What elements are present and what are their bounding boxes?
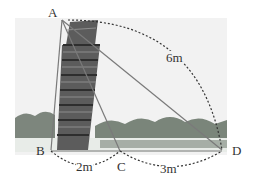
point-label-b: B: [36, 144, 45, 157]
point-label-c: C: [117, 160, 126, 173]
point-label-a: A: [48, 6, 57, 19]
photo-background: [15, 18, 227, 155]
measure-bc-label: 2m: [76, 160, 93, 173]
measure-ad-label: 6m: [166, 51, 183, 64]
measure-cd-label: 3m: [160, 162, 177, 175]
point-label-d: D: [232, 144, 241, 157]
